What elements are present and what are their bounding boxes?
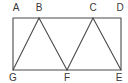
label-a: A bbox=[13, 2, 20, 13]
segment-bf bbox=[39, 18, 67, 70]
label-g: G bbox=[9, 72, 17, 83]
label-f: F bbox=[64, 72, 70, 83]
label-b: B bbox=[36, 2, 43, 13]
rectangle-adeg bbox=[13, 18, 121, 70]
segment-ce bbox=[93, 18, 121, 70]
label-c: C bbox=[89, 2, 96, 13]
segment-gb bbox=[13, 18, 39, 70]
label-d: D bbox=[116, 2, 123, 13]
segment-fc bbox=[67, 18, 93, 70]
label-e: E bbox=[116, 72, 123, 83]
geometry-diagram: A B C D G F E bbox=[0, 0, 128, 83]
